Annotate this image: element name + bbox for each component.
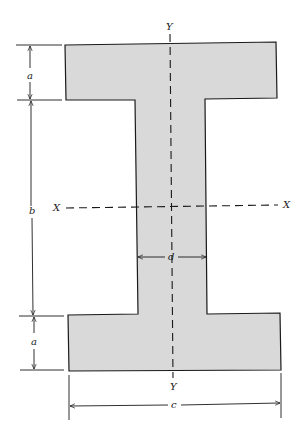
dim-label-c: c [171, 399, 177, 410]
dim-label-a-top: a [27, 70, 33, 81]
dim-c-left [70, 405, 168, 406]
x-axis-label-left: X [52, 202, 61, 213]
dim-label-b: b [29, 205, 35, 216]
dim-c-right [181, 403, 280, 405]
dim-b-lower [32, 218, 33, 315]
x-axis-label-right: X [282, 199, 291, 210]
dim-label-a-bottom: a [31, 336, 37, 347]
y-axis-label-top: Y [166, 21, 174, 32]
y-axis-label-bottom: Y [170, 381, 178, 392]
i-beam-diagram: Y Y X X a b a d c [0, 0, 302, 436]
dim-label-d: d [168, 251, 174, 262]
